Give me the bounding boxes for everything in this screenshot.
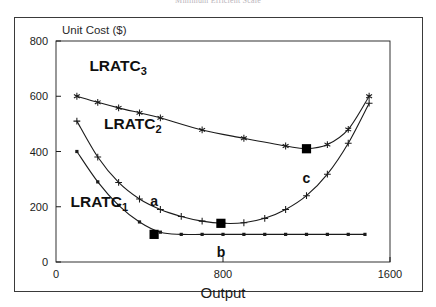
marker-LRATC_2-3 bbox=[136, 196, 143, 203]
marker-LRATC_1-9 bbox=[263, 233, 266, 236]
y-tick-label-800: 800 bbox=[30, 35, 48, 47]
annotation-label-a: a bbox=[150, 193, 158, 209]
x-tick-label-1600: 1600 bbox=[378, 268, 402, 280]
marker-LRATC_2-6 bbox=[199, 218, 206, 225]
marker-LRATC_1-13 bbox=[347, 233, 350, 236]
marker-LRATC_1-10 bbox=[284, 233, 287, 236]
annotation-marker-c bbox=[302, 144, 311, 153]
y-axis-title: Unit Cost ($) bbox=[62, 24, 127, 36]
x-axis-title: Output bbox=[200, 284, 246, 301]
marker-LRATC_1-1 bbox=[96, 180, 99, 183]
marker-LRATC_2-13 bbox=[345, 140, 352, 147]
y-tick-label-0: 0 bbox=[42, 256, 48, 268]
marker-LRATC_2-5 bbox=[178, 213, 185, 220]
marker-LRATC_1-5 bbox=[180, 233, 183, 236]
marker-LRATC_1-14 bbox=[363, 233, 366, 236]
marker-LRATC_1-4 bbox=[159, 231, 162, 234]
y-tick-label-400: 400 bbox=[30, 146, 48, 158]
annotation-marker-a bbox=[150, 230, 159, 239]
marker-LRATC_2-1 bbox=[94, 154, 101, 161]
marker-LRATC_1-3 bbox=[138, 220, 141, 223]
annotation-marker-b bbox=[216, 219, 225, 228]
curve-label-LRATC_2: LRATC2 bbox=[104, 115, 162, 135]
figure-root: Minimum Efficient Scale 0200400600800080… bbox=[0, 0, 436, 307]
marker-LRATC_2-8 bbox=[240, 219, 247, 226]
chart-svg: 020040060080008001600Unit Cost ($)Output… bbox=[0, 0, 436, 307]
annotation-label-b: b bbox=[217, 244, 226, 260]
marker-LRATC_1-6 bbox=[201, 233, 204, 236]
marker-LRATC_1-7 bbox=[221, 233, 224, 236]
curve-label-LRATC_3: LRATC3 bbox=[89, 57, 146, 77]
marker-LRATC_1-8 bbox=[242, 233, 245, 236]
marker-LRATC_3-1 bbox=[95, 99, 101, 106]
marker-LRATC_1-11 bbox=[305, 233, 308, 236]
marker-LRATC_3-9 bbox=[324, 141, 330, 148]
marker-LRATC_2-0 bbox=[73, 118, 80, 125]
marker-LRATC_3-0 bbox=[74, 93, 80, 100]
y-tick-label-200: 200 bbox=[30, 201, 48, 213]
marker-LRATC_2-10 bbox=[282, 206, 289, 213]
x-tick-label-0: 0 bbox=[53, 268, 59, 280]
curve-label-LRATC_1: LRATC1 bbox=[71, 193, 129, 213]
marker-LRATC_1-12 bbox=[326, 233, 329, 236]
x-tick-label-800: 800 bbox=[214, 268, 232, 280]
y-tick-label-600: 600 bbox=[30, 90, 48, 102]
marker-LRATC_2-9 bbox=[261, 215, 268, 222]
marker-LRATC_1-0 bbox=[75, 150, 78, 153]
plot-group: 020040060080008001600Unit Cost ($)Output… bbox=[30, 24, 403, 301]
annotation-label-c: c bbox=[303, 170, 311, 186]
